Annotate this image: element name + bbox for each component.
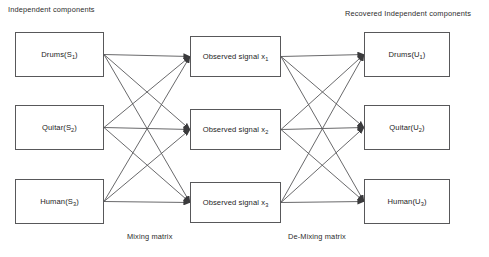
recovered-node-drums: Drums(U1) (364, 32, 450, 77)
source-node-drums-label: Drums(S1) (41, 50, 78, 59)
ica-diagram: Independent components Recovered Indepen… (0, 0, 489, 257)
observed-node-x2: Observed signal x2 (190, 109, 281, 150)
source-node-guitar: Quitar(S2) (15, 105, 104, 150)
observed-node-x3: Observed signal x3 (190, 182, 281, 223)
source-node-drums: Drums(S1) (15, 32, 104, 77)
observed-node-x3-label: Observed signal x3 (203, 198, 269, 207)
recovered-node-drums-label: Drums(U1) (389, 50, 426, 59)
observed-node-x2-label: Observed signal x2 (203, 125, 269, 134)
source-node-human: Human(S3) (15, 179, 104, 224)
recovered-node-guitar-label: Quitar(U2) (389, 123, 424, 132)
source-node-guitar-label: Quitar(S2) (42, 123, 77, 132)
observed-node-x1: Observed signal x1 (190, 36, 281, 77)
source-node-human-label: Human(S3) (40, 197, 79, 206)
recovered-node-human: Human(U3) (364, 179, 450, 224)
recovered-node-human-label: Human(U3) (387, 197, 426, 206)
recovered-node-guitar: Quitar(U2) (364, 105, 450, 150)
observed-node-x1-label: Observed signal x1 (203, 52, 269, 61)
